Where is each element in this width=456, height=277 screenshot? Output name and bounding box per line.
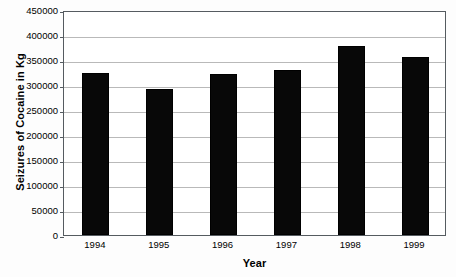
bar bbox=[274, 70, 301, 236]
y-axis-tick-mark bbox=[60, 87, 64, 88]
gridline bbox=[64, 162, 445, 163]
bar bbox=[146, 89, 173, 235]
x-axis-tick-label: 1994 bbox=[84, 239, 105, 251]
plot-area bbox=[63, 11, 446, 236]
bar bbox=[402, 57, 429, 235]
y-axis-tick-label: 300000 bbox=[0, 81, 58, 91]
y-axis-tick-mark bbox=[60, 12, 64, 13]
y-axis-tick-labels: 0500001000001500002000002500003000003500… bbox=[0, 0, 58, 277]
plot-inner bbox=[64, 12, 445, 235]
y-axis-tick-label: 450000 bbox=[0, 6, 58, 16]
y-axis-tick-label: 50000 bbox=[0, 206, 58, 216]
y-axis-tick-label: 400000 bbox=[0, 31, 58, 41]
gridline bbox=[64, 62, 445, 63]
bar bbox=[210, 74, 237, 235]
y-axis-tick-mark bbox=[60, 112, 64, 113]
y-axis-tick-mark bbox=[60, 187, 64, 188]
x-axis-tick-label: 1995 bbox=[148, 239, 169, 251]
gridline bbox=[64, 187, 445, 188]
x-axis-tick-labels: 199419951996199719981999 bbox=[63, 239, 446, 253]
y-axis-tick-label: 350000 bbox=[0, 56, 58, 66]
x-axis-tick-label: 1998 bbox=[340, 239, 361, 251]
gridline bbox=[64, 87, 445, 88]
y-axis-tick-label: 200000 bbox=[0, 131, 58, 141]
y-axis-tick-mark bbox=[60, 212, 64, 213]
gridline bbox=[64, 137, 445, 138]
bar-chart-figure: Seizures of Cocaine in Kg 05000010000015… bbox=[0, 0, 456, 277]
gridline bbox=[64, 212, 445, 213]
y-axis-tick-label: 0 bbox=[0, 231, 58, 241]
y-axis-tick-mark bbox=[60, 137, 64, 138]
y-axis-tick-label: 150000 bbox=[0, 156, 58, 166]
y-axis-tick-label: 100000 bbox=[0, 181, 58, 191]
y-axis-tick-label: 250000 bbox=[0, 106, 58, 116]
gridline bbox=[64, 37, 445, 38]
gridline bbox=[64, 112, 445, 113]
bar bbox=[82, 73, 109, 235]
x-axis-tick-label: 1999 bbox=[404, 239, 425, 251]
bar bbox=[338, 46, 365, 236]
x-axis-title: Year bbox=[63, 257, 446, 269]
y-axis-tick-mark bbox=[60, 37, 64, 38]
y-axis-tick-mark bbox=[60, 162, 64, 163]
x-axis-tick-label: 1996 bbox=[212, 239, 233, 251]
y-axis-tick-mark bbox=[60, 237, 64, 238]
x-axis-tick-label: 1997 bbox=[276, 239, 297, 251]
y-axis-tick-mark bbox=[60, 62, 64, 63]
